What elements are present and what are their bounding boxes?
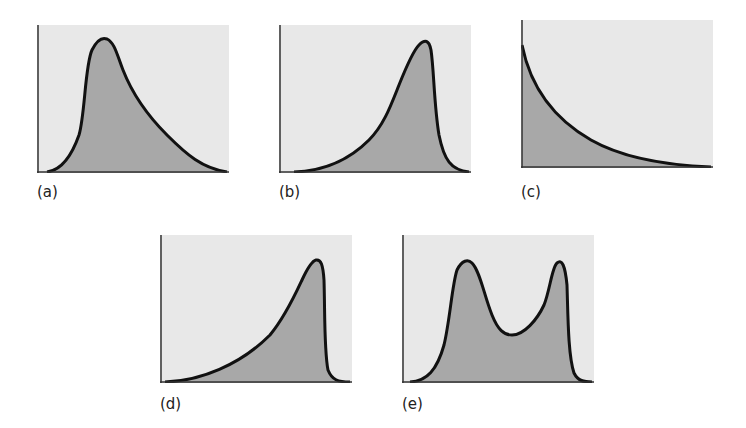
right-skewed-curve-plot (37, 25, 229, 173)
panel-a-right-skewed (37, 25, 229, 173)
panel-a-label: (a) (37, 183, 58, 201)
panel-b-left-skewed (279, 25, 471, 173)
panel-e-bimodal (402, 235, 594, 383)
panel-c-exponential (521, 20, 713, 168)
bimodal-curve-plot (402, 235, 594, 383)
panel-d-label: (d) (160, 395, 181, 413)
strong-left-skewed-curve-plot (160, 235, 352, 383)
panel-e-label: (e) (402, 395, 423, 413)
left-skewed-curve-plot (279, 25, 471, 173)
panel-b-label: (b) (279, 183, 300, 201)
panel-c-label: (c) (521, 183, 541, 201)
panel-d-strong-left-skew (160, 235, 352, 383)
exponential-decay-curve-plot (521, 20, 713, 168)
